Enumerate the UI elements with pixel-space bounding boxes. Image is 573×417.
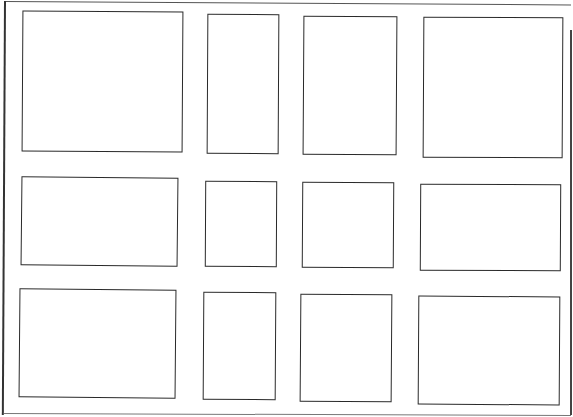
grid-cell-r1-c1 — [22, 11, 184, 153]
grid-cell-r1-c2 — [207, 14, 280, 154]
grid-cell-r2-c4 — [420, 184, 561, 272]
grid-cell-r2-c3 — [302, 182, 395, 269]
grid-cell-r2-c1 — [21, 176, 179, 267]
grid-cell-r1-c4 — [423, 17, 564, 159]
grid-cell-r3-c3 — [300, 294, 393, 403]
outer-frame-right-edge — [570, 30, 572, 415]
grid-cell-r2-c2 — [205, 181, 277, 267]
outer-frame-left-edge — [2, 1, 6, 415]
grid-cell-r1-c3 — [303, 16, 398, 156]
outer-frame-top-edge — [5, 1, 571, 5]
grid-cell-r3-c1 — [19, 288, 177, 398]
outer-frame-bottom-edge — [4, 413, 571, 416]
grid-cell-r3-c4 — [418, 296, 561, 406]
grid-cell-r3-c2 — [203, 292, 277, 400]
